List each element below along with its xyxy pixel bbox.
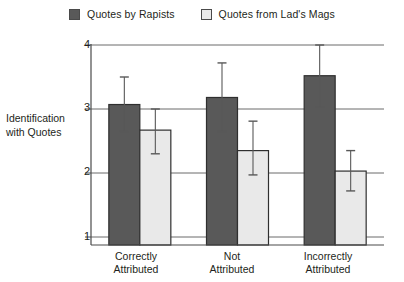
chart-plot-area: 4 3 2 1 Identification with Quotes Corre… [0, 0, 404, 282]
x-category-label-1-line-2: Attributed [177, 263, 287, 276]
x-category-label-0-line-1: Correctly [81, 250, 191, 263]
y-axis-label-line-1: Identification [6, 112, 65, 124]
bars-group [109, 76, 366, 245]
x-category-label-1-line-1: Not [177, 250, 287, 263]
y-axis-label-line-3: Quotes [28, 126, 62, 138]
x-category-label-2-line-1: Incorrectly [273, 250, 383, 263]
y-tick-label-2: 2 [76, 165, 90, 177]
y-tick-label-1: 1 [76, 230, 90, 242]
bar-chart-svg [0, 0, 404, 282]
x-category-label-not-attributed: Not Attributed [177, 250, 287, 276]
x-category-label-0-line-2: Attributed [81, 263, 191, 276]
y-tick-label-4: 4 [76, 38, 90, 50]
y-axis-label: Identification with Quotes [6, 112, 80, 139]
x-category-label-correctly-attributed: Correctly Attributed [81, 250, 191, 276]
x-category-label-incorrectly-attributed: Incorrectly Attributed [273, 250, 383, 276]
y-axis-label-line-2: with [6, 126, 25, 138]
x-category-label-2-line-2: Attributed [273, 263, 383, 276]
